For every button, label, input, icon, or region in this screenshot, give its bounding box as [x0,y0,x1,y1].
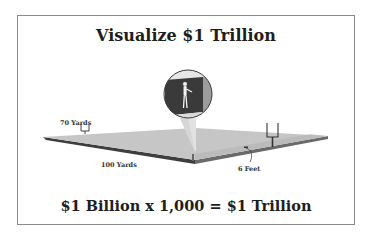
magnifier-inset [160,66,220,126]
height-label: 6 Feet [238,165,260,173]
equation-text: $1 Billion x 1,000 = $1 Trillion [0,197,372,214]
width-label: 70 Yards [60,119,91,127]
length-label: 100 Yards [101,161,137,169]
